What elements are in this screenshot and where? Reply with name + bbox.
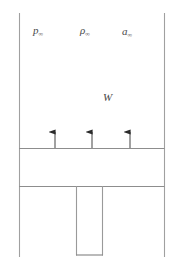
label-freestream-pressure: p∞ [33,25,43,37]
density-subscript: ∞ [85,30,90,37]
label-velocity-w: W [103,92,112,103]
sound-speed-subscript: ∞ [128,31,133,38]
pressure-subscript: ∞ [39,30,44,37]
label-freestream-density: ρ∞ [80,25,90,37]
label-freestream-sound-speed: a∞ [122,26,132,38]
diagram-canvas [0,0,178,270]
flow-diagram-figure: p∞ ρ∞ a∞ W [0,0,178,270]
